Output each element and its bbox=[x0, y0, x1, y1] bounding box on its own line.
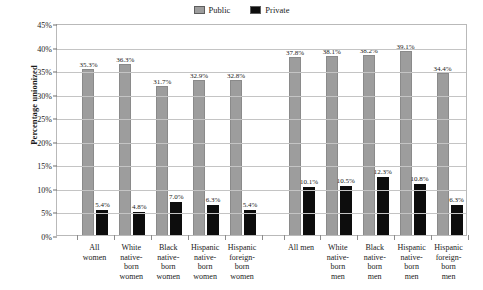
gridline bbox=[57, 119, 466, 120]
x-tick-mark bbox=[320, 235, 321, 240]
legend-item-public[interactable]: Public bbox=[194, 5, 231, 15]
bar-public[interactable]: 38.2% bbox=[363, 55, 375, 235]
y-tick-label: 25% bbox=[12, 115, 52, 124]
bar-public[interactable]: 36.3% bbox=[119, 64, 131, 235]
x-tick-mark bbox=[262, 235, 263, 240]
bar-private[interactable]: 6.3% bbox=[451, 205, 463, 235]
gridline bbox=[57, 49, 466, 50]
bar-private[interactable]: 4.8% bbox=[133, 212, 145, 235]
bar-value-label: 35.3% bbox=[79, 61, 97, 69]
x-tick-mark bbox=[77, 235, 78, 240]
gridline bbox=[57, 72, 466, 73]
category-label: Hispanic native- born men bbox=[393, 243, 430, 281]
gridline bbox=[57, 213, 466, 214]
y-tick-label: 35% bbox=[12, 68, 52, 77]
y-tick-mark bbox=[53, 48, 57, 49]
y-tick-mark bbox=[53, 119, 57, 120]
x-tick-mark bbox=[114, 235, 115, 240]
bar-value-label: 36.3% bbox=[116, 56, 134, 64]
gridline bbox=[57, 96, 466, 97]
bar-value-label: 39.1% bbox=[397, 43, 415, 51]
y-tick-mark bbox=[53, 166, 57, 167]
y-tick-mark bbox=[53, 237, 57, 238]
bar-value-label: 4.8% bbox=[132, 203, 147, 211]
y-tick-label: 5% bbox=[12, 209, 52, 218]
category-label: All women bbox=[76, 243, 113, 262]
x-tick-mark bbox=[431, 235, 432, 240]
gridline bbox=[57, 143, 466, 144]
legend-label: Private bbox=[265, 5, 289, 15]
legend-swatch-icon bbox=[250, 6, 261, 14]
bar-value-label: 32.9% bbox=[190, 72, 208, 80]
y-tick-mark bbox=[53, 189, 57, 190]
legend-item-private[interactable]: Private bbox=[250, 5, 289, 15]
bar-value-label: 7.0% bbox=[169, 193, 184, 201]
plot-area: 35.3%5.4%36.3%4.8%31.7%7.0%32.9%6.3%32.8… bbox=[56, 24, 467, 236]
y-tick-mark bbox=[53, 72, 57, 73]
y-tick-label: 20% bbox=[12, 138, 52, 147]
bar-private[interactable]: 12.3% bbox=[377, 177, 389, 235]
x-tick-mark bbox=[284, 235, 285, 240]
bar-value-label: 31.7% bbox=[153, 78, 171, 86]
bar-value-label: 37.8% bbox=[286, 49, 304, 57]
bar-private[interactable]: 6.3% bbox=[207, 205, 219, 235]
bar-value-label: 10.5% bbox=[337, 177, 355, 185]
y-tick-mark bbox=[53, 142, 57, 143]
unionization-bar-chart: Percentage unionized 35.3%5.4%36.3%4.8%3… bbox=[0, 0, 483, 290]
bar-value-label: 6.3% bbox=[449, 196, 464, 204]
category-label: All men bbox=[283, 243, 320, 253]
x-tick-mark bbox=[468, 235, 469, 240]
bar-private[interactable]: 10.8% bbox=[414, 184, 426, 235]
bar-public[interactable]: 32.8% bbox=[230, 80, 242, 235]
bar-public[interactable]: 35.3% bbox=[82, 69, 94, 235]
y-tick-mark bbox=[53, 213, 57, 214]
bar-value-label: 6.3% bbox=[206, 196, 221, 204]
category-axis-labels: All womenWhite native- born womenBlack n… bbox=[56, 243, 467, 289]
x-tick-mark bbox=[394, 235, 395, 240]
bar-public[interactable]: 32.9% bbox=[193, 80, 205, 235]
bar-private[interactable]: 10.1% bbox=[303, 187, 315, 235]
x-tick-mark bbox=[357, 235, 358, 240]
x-tick-mark bbox=[225, 235, 226, 240]
bar-public[interactable]: 38.1% bbox=[326, 56, 338, 235]
gridline bbox=[57, 190, 466, 191]
bar-private[interactable]: 10.5% bbox=[340, 186, 352, 235]
category-label: Hispanic foreign- born men bbox=[430, 243, 467, 281]
category-label: Black native- born men bbox=[356, 243, 393, 281]
y-tick-mark bbox=[53, 25, 57, 26]
bar-value-label: 5.4% bbox=[95, 201, 110, 209]
y-tick-label: 45% bbox=[12, 21, 52, 30]
category-label: Black native- born women bbox=[150, 243, 187, 281]
bar-public[interactable]: 34.4% bbox=[437, 73, 449, 235]
bar-private[interactable]: 7.0% bbox=[170, 202, 182, 235]
bar-public[interactable]: 37.8% bbox=[289, 57, 301, 235]
category-label: Hispanic foreign- born women bbox=[224, 243, 261, 281]
y-tick-label: 15% bbox=[12, 162, 52, 171]
chart-legend: PublicPrivate bbox=[0, 5, 483, 15]
gridline bbox=[57, 166, 466, 167]
bar-value-label: 5.4% bbox=[243, 201, 258, 209]
x-tick-mark bbox=[151, 235, 152, 240]
category-label: Hispanic native- born women bbox=[187, 243, 224, 281]
y-tick-label: 30% bbox=[12, 91, 52, 100]
y-tick-label: 10% bbox=[12, 185, 52, 194]
legend-label: Public bbox=[209, 5, 231, 15]
legend-swatch-icon bbox=[194, 6, 205, 14]
y-tick-label: 40% bbox=[12, 44, 52, 53]
bar-value-label: 10.1% bbox=[300, 178, 318, 186]
bar-value-label: 12.3% bbox=[374, 168, 392, 176]
x-tick-mark bbox=[188, 235, 189, 240]
bar-value-label: 10.8% bbox=[411, 175, 429, 183]
category-label: White native- born men bbox=[319, 243, 356, 281]
y-tick-label: 0% bbox=[12, 233, 52, 242]
y-tick-mark bbox=[53, 95, 57, 96]
bars-layer: 35.3%5.4%36.3%4.8%31.7%7.0%32.9%6.3%32.8… bbox=[57, 25, 466, 235]
bar-value-label: 32.8% bbox=[227, 72, 245, 80]
category-label: White native- born women bbox=[113, 243, 150, 281]
